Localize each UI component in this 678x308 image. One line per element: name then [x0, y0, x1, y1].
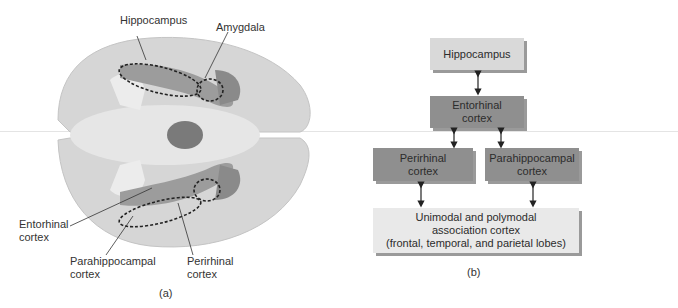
label-hippocampus: Hippocampus [120, 14, 187, 27]
label-amygdala: Amygdala [216, 21, 265, 34]
brain-ventral-view-illustration [0, 0, 340, 308]
label-parahippocampal-cortex: Parahippocampal cortex [70, 255, 156, 281]
caption-b: (b) [467, 266, 480, 279]
label-entorhinal-cortex: Entorhinal cortex [19, 218, 69, 244]
bidirectional-arrows [360, 0, 600, 240]
label-perirhinal-cortex: Perirhinal cortex [187, 255, 233, 281]
caption-a: (a) [159, 287, 172, 300]
